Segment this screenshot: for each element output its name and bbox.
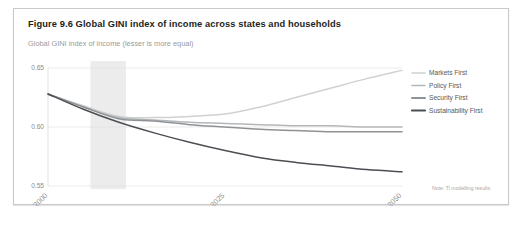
x-axis-tick-labels: 200020252050 bbox=[31, 191, 403, 206]
line-chart: 0.650.600.55 200020252050 Markets FirstP… bbox=[14, 9, 510, 206]
chart-plot-area: 0.650.600.55 200020252050 Markets FirstP… bbox=[14, 9, 510, 206]
x-tick-label: 2000 bbox=[31, 191, 49, 206]
y-tick-label: 0.55 bbox=[31, 182, 44, 189]
figure-card: Figure 9.6 Global GINI index of income a… bbox=[13, 8, 509, 205]
y-tick-label: 0.60 bbox=[31, 123, 44, 130]
x-tick-label: 2025 bbox=[208, 191, 226, 206]
x-tick-label: 2050 bbox=[385, 191, 403, 206]
y-tick-label: 0.65 bbox=[31, 64, 44, 71]
chart-legend: Markets FirstPolicy FirstSecurity FirstS… bbox=[412, 69, 483, 115]
y-axis-tick-labels: 0.650.600.55 bbox=[31, 64, 44, 189]
legend-label-sustainability-first: Sustainability First bbox=[429, 107, 483, 115]
shaded-period-band bbox=[90, 61, 125, 189]
legend-label-policy-first: Policy First bbox=[429, 82, 461, 90]
chart-note: Note: Ti modelling results bbox=[432, 185, 491, 191]
legend-label-security-first: Security First bbox=[429, 94, 468, 102]
legend-label-markets-first: Markets First bbox=[429, 69, 467, 76]
